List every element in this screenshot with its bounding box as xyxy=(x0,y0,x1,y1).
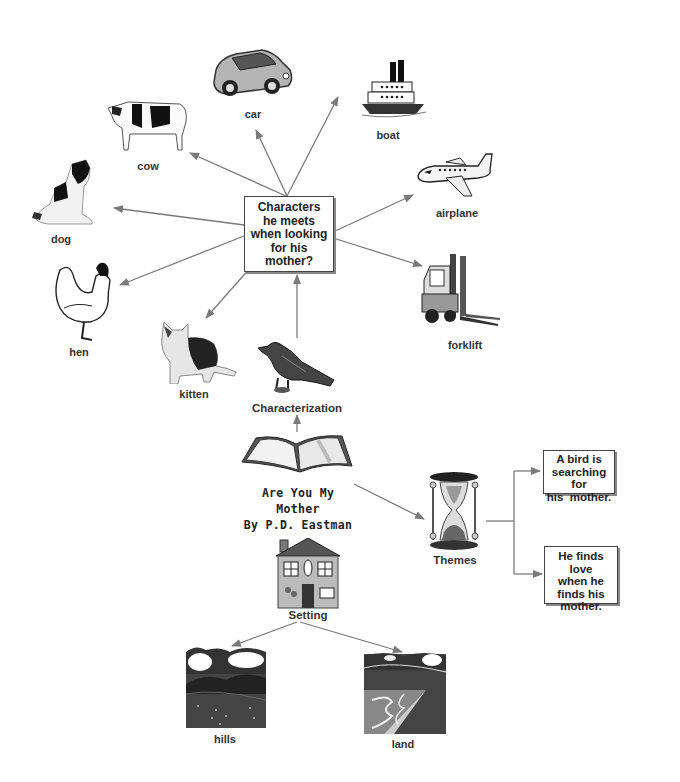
characters-question-box: Characters he meets when looking for his… xyxy=(244,196,334,272)
theme-line: his mother. xyxy=(546,491,612,504)
book-author-line: By P.D. Eastman xyxy=(228,517,368,533)
kitten-icon xyxy=(158,322,238,384)
themes-label: Themes xyxy=(428,554,482,566)
open-book-icon xyxy=(238,432,356,474)
theme-box-2: He finds love when he finds his mother. xyxy=(544,546,618,604)
setting-label: Setting xyxy=(280,609,336,621)
question-line: he meets xyxy=(247,215,331,229)
book-title: Are You My Mother By P.D. Eastman xyxy=(228,485,368,533)
airplane-icon xyxy=(416,152,498,198)
house-icon xyxy=(276,538,342,610)
airplane-label: airplane xyxy=(432,207,482,219)
book-title-line: Are You My xyxy=(228,485,368,501)
theme-line: finds his xyxy=(547,588,615,601)
car-icon xyxy=(210,40,296,100)
bird-icon xyxy=(258,340,338,396)
concept-map: Characters he meets when looking for his… xyxy=(0,0,680,782)
theme-line: searching for xyxy=(546,466,612,491)
connector-arrows xyxy=(0,0,680,782)
question-line: Characters xyxy=(247,201,331,215)
river-landscape-icon xyxy=(364,650,446,734)
cow-icon xyxy=(108,94,190,152)
question-line: when looking xyxy=(247,228,331,242)
theme-line: A bird is xyxy=(546,453,612,466)
cow-label: cow xyxy=(128,160,168,172)
theme-line: when he xyxy=(547,575,615,588)
boat-icon xyxy=(362,60,428,120)
boat-label: boat xyxy=(368,129,408,141)
theme-line: He finds love xyxy=(547,550,615,575)
book-title-line: Mother xyxy=(228,501,368,517)
question-line: mother? xyxy=(247,255,331,269)
question-line: for his xyxy=(247,242,331,256)
dog-icon xyxy=(32,158,98,228)
hen-icon xyxy=(52,258,114,344)
hen-label: hen xyxy=(64,346,94,358)
hills-landscape-icon xyxy=(186,644,266,728)
land-label: land xyxy=(386,738,420,750)
dog-label: dog xyxy=(46,233,76,245)
forklift-icon xyxy=(420,254,502,334)
hourglass-icon xyxy=(428,472,480,550)
kitten-label: kitten xyxy=(172,388,216,400)
car-label: car xyxy=(238,108,268,120)
theme-box-1: A bird is searching for his mother. xyxy=(543,450,615,494)
characterization-label: Characterization xyxy=(246,402,348,414)
theme-line: mother. xyxy=(547,600,615,613)
forklift-label: forklift xyxy=(440,339,490,351)
hills-label: hills xyxy=(210,733,240,745)
